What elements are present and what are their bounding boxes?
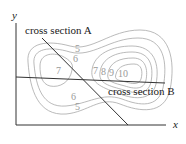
y-axis-label: y <box>12 10 17 21</box>
contour-label-7-right: 7 <box>93 66 98 76</box>
contour-diagram: y x cross section A cross section B 5 6 … <box>0 0 186 144</box>
contour-label-6-top: 6 <box>73 54 78 64</box>
contour-label-10: 10 <box>118 69 128 79</box>
cross-section-a-label: cross section A <box>25 25 92 36</box>
contour-label-7-left: 7 <box>56 66 61 76</box>
cross-section-b-line <box>16 77 165 83</box>
cross-section-b-label: cross section B <box>108 86 175 97</box>
contour-lines <box>28 30 172 114</box>
contour-label-9: 9 <box>109 68 114 78</box>
x-axis-label: x <box>173 119 178 130</box>
contour-label-8: 8 <box>101 67 106 77</box>
contour-label-5-bottom: 5 <box>75 102 80 112</box>
cross-section-a-line <box>42 38 128 125</box>
